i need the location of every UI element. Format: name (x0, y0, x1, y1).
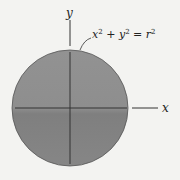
y-axis-label: y (65, 6, 73, 20)
circle-equation: x2 + y2 = r2 (92, 28, 156, 41)
leader-line (80, 38, 91, 50)
disk-diagram: y x x2 + y2 = r2 (0, 0, 180, 180)
x-axis-label: x (162, 101, 169, 115)
